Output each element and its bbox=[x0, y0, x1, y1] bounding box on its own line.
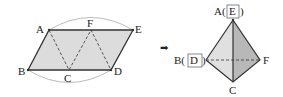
label-b: B bbox=[18, 65, 25, 77]
parallelogram bbox=[28, 30, 133, 70]
label-d-answer: D bbox=[190, 54, 198, 66]
label-a: A bbox=[36, 23, 44, 35]
label-c: C bbox=[229, 84, 236, 96]
tetrahedron: A( E ) B( D ) F C bbox=[174, 5, 269, 96]
label-f: F bbox=[263, 54, 269, 66]
label-b-prefix: B( bbox=[174, 54, 185, 67]
label-e: E bbox=[135, 23, 142, 35]
parallelogram-net: A F E B C D bbox=[18, 17, 142, 84]
label-d: D bbox=[114, 65, 122, 77]
right-arrow-icon: ➡ bbox=[160, 42, 169, 53]
label-e-answer: E bbox=[229, 5, 236, 17]
tetrahedron-net-diagram: A F E B C D ➡ A( E ) B( D ) F C bbox=[0, 0, 283, 97]
label-f: F bbox=[87, 17, 93, 29]
label-b-suffix: ) bbox=[202, 54, 206, 67]
label-c: C bbox=[64, 72, 71, 84]
label-a-suffix: ) bbox=[240, 5, 244, 18]
label-a-prefix: A( bbox=[214, 5, 226, 18]
